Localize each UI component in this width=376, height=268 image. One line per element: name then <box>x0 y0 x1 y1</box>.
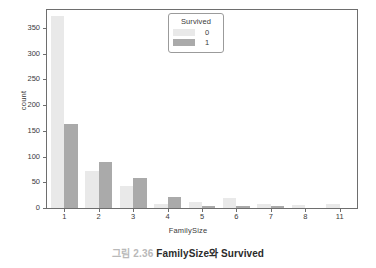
x-axis-label: FamilySize <box>0 226 376 235</box>
bar <box>99 162 112 208</box>
x-tick-mark <box>202 209 203 212</box>
y-tick-label: 200 <box>14 101 40 108</box>
legend-entry[interactable]: 0 <box>173 28 219 37</box>
figure: count 050100150200250300350 1234567811 F… <box>0 0 376 268</box>
bar <box>202 206 215 208</box>
legend[interactable]: Survived 01 <box>168 13 224 53</box>
x-tick-mark <box>236 209 237 212</box>
y-tick-label: 0 <box>14 204 40 211</box>
legend-entries: 01 <box>173 28 219 47</box>
legend-swatch <box>173 39 195 46</box>
bar <box>257 204 270 208</box>
x-tick-mark <box>340 209 341 212</box>
bar <box>223 198 236 208</box>
x-tick-label: 1 <box>54 212 74 221</box>
bar <box>236 206 249 208</box>
x-tick-mark <box>271 209 272 212</box>
bar <box>326 204 339 208</box>
x-tick-mark <box>64 209 65 212</box>
bar <box>189 202 202 208</box>
x-tick-label: 11 <box>330 212 350 221</box>
x-tick-label: 4 <box>158 212 178 221</box>
bar <box>271 206 284 208</box>
x-tick-label: 8 <box>295 212 315 221</box>
y-tick-label: 300 <box>14 50 40 57</box>
legend-entry[interactable]: 1 <box>173 38 219 47</box>
legend-swatch <box>173 29 195 36</box>
x-tick-mark <box>99 209 100 212</box>
bar <box>51 16 64 208</box>
y-tick-label: 350 <box>14 24 40 31</box>
bar <box>292 205 305 208</box>
bar <box>168 197 181 208</box>
x-tick-mark <box>305 209 306 212</box>
x-tick-label: 5 <box>192 212 212 221</box>
caption-title: FamilySize와 Survived <box>156 248 264 259</box>
figure-caption: 그림 2.36 FamilySize와 Survived <box>0 247 376 260</box>
y-tick-label: 50 <box>14 178 40 185</box>
x-tick-label: 7 <box>261 212 281 221</box>
caption-number: 그림 2.36 <box>112 248 154 259</box>
y-tick-label: 250 <box>14 75 40 82</box>
legend-label: 0 <box>195 28 219 37</box>
y-tick-label: 150 <box>14 127 40 134</box>
legend-title: Survived <box>173 17 219 26</box>
x-tick-mark <box>168 209 169 212</box>
y-tick-label: 100 <box>14 153 40 160</box>
x-tick-label: 3 <box>123 212 143 221</box>
bar <box>120 186 133 208</box>
x-tick-label: 6 <box>226 212 246 221</box>
bar <box>154 204 167 208</box>
x-tick-label: 2 <box>89 212 109 221</box>
bar <box>85 171 98 208</box>
legend-label: 1 <box>195 38 219 47</box>
x-tick-mark <box>133 209 134 212</box>
bar <box>133 178 146 208</box>
bar <box>64 124 77 208</box>
